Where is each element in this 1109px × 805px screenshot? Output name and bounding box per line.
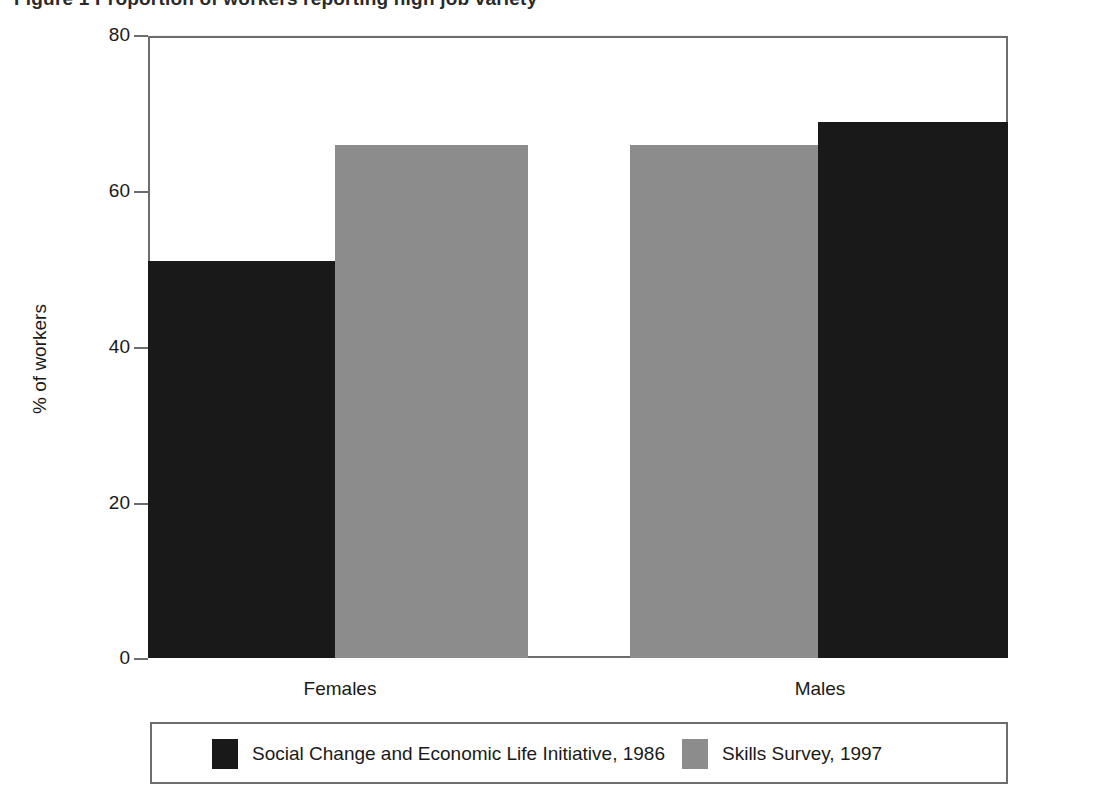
bar-males-1986[interactable] — [818, 122, 1008, 658]
y-tick-80 — [134, 35, 148, 37]
legend-entry-1986[interactable]: Social Change and Economic Life Initiati… — [212, 734, 665, 774]
figure-title: Figure 1 Proportion of workers reporting… — [0, 0, 1109, 12]
x-axis-label-females: Females — [240, 678, 440, 700]
figure-title-text: Figure 1 Proportion of workers reporting… — [0, 0, 1109, 12]
y-tick-label-60: 60 — [90, 180, 130, 202]
y-tick-label-0: 0 — [90, 647, 130, 669]
legend-swatch-icon-1986 — [212, 739, 238, 769]
legend: Social Change and Economic Life Initiati… — [150, 722, 1008, 784]
bar-females-1997[interactable] — [335, 145, 528, 658]
y-tick-label-40: 40 — [90, 336, 130, 358]
y-tick-60 — [134, 191, 148, 193]
y-tick-20 — [134, 503, 148, 505]
bar-males-1997[interactable] — [630, 145, 818, 658]
y-tick-label-80: 80 — [90, 24, 130, 46]
legend-swatch-icon-1997 — [682, 739, 708, 769]
legend-entry-1997[interactable]: Skills Survey, 1997 — [682, 734, 882, 774]
plot-area — [148, 36, 1008, 658]
x-axis-label-males: Males — [720, 678, 920, 700]
y-tick-40 — [134, 347, 148, 349]
y-axis-title: % of workers — [29, 259, 51, 459]
legend-label-1986: Social Change and Economic Life Initiati… — [252, 743, 665, 765]
y-tick-0 — [134, 658, 148, 660]
bar-females-1986[interactable] — [148, 261, 335, 658]
legend-label-1997: Skills Survey, 1997 — [722, 743, 882, 765]
y-tick-label-20: 20 — [90, 492, 130, 514]
